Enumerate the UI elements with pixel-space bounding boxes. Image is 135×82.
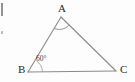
angle-label-b: 60°	[36, 55, 47, 63]
edge-AB	[28, 17, 61, 72]
angle-arcs	[37, 25, 70, 72]
cropped-glyph-artifact-top	[1, 3, 3, 16]
triangle-edges	[28, 17, 116, 72]
cropped-glyph-artifact-mid	[1, 31, 3, 34]
vertex-label-a: A	[58, 3, 66, 14]
vertex-label-b: B	[18, 64, 25, 75]
angle-arc-A	[54, 25, 69, 29]
geometry-figure: A B C 60°	[0, 0, 135, 82]
vertex-label-c: C	[120, 64, 127, 75]
edge-BC	[28, 71, 116, 72]
edge-AC	[61, 17, 116, 71]
